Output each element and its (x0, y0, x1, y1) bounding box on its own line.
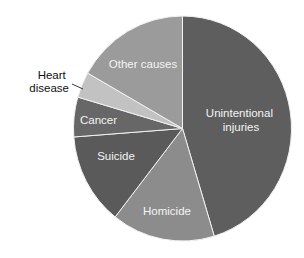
label-suicide: Suicide (97, 150, 135, 162)
label-other-causes: Other causes (109, 58, 178, 70)
label-heart-disease: Heart disease (29, 69, 69, 94)
label-cancer: Cancer (80, 114, 117, 126)
label-homicide: Homicide (143, 205, 191, 217)
pie-chart: Unintentional injuries Homicide Suicide … (0, 0, 304, 258)
